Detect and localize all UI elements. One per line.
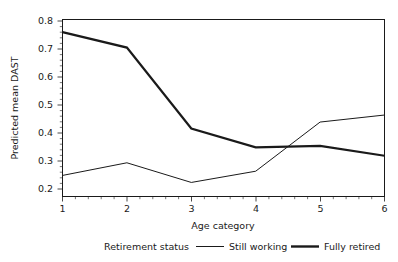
x-tick-label-1: 2 [124, 203, 130, 214]
y-tick-label-1: 0.3 [38, 155, 53, 166]
y-tick-label-0: 0.2 [38, 183, 53, 194]
y-tick-label-5: 0.7 [38, 43, 53, 54]
legend-label-fully-retired: Fully retired [324, 241, 380, 252]
legend-title: Retirement status [104, 241, 189, 252]
x-tick-label-4: 5 [317, 203, 323, 214]
chart-legend: Retirement status Still working Fully re… [104, 241, 380, 252]
chart-figure: 0.2 0.3 0.4 0.5 0.6 0.7 0.8 Predicted me… [0, 0, 398, 262]
x-tick-label-0: 1 [59, 203, 65, 214]
x-tick-label-5: 6 [381, 203, 387, 214]
y-tick-label-6: 0.8 [38, 15, 53, 26]
plot-frame [63, 20, 385, 197]
x-axis-title: Age category [191, 220, 255, 231]
x-tick-label-3: 4 [253, 203, 259, 214]
y-tick-label-4: 0.6 [38, 71, 53, 82]
line-chart: 0.2 0.3 0.4 0.5 0.6 0.7 0.8 Predicted me… [0, 0, 398, 262]
x-tick-label-2: 3 [188, 203, 194, 214]
y-tick-label-3: 0.5 [38, 99, 53, 110]
y-tick-label-2: 0.4 [38, 127, 53, 138]
series-line-fully-retired [63, 32, 385, 156]
y-axis-title: Predicted mean DAST [9, 56, 20, 159]
x-axis-ticks [63, 197, 385, 202]
y-axis-ticks [58, 21, 63, 189]
legend-label-still-working: Still working [229, 241, 287, 252]
